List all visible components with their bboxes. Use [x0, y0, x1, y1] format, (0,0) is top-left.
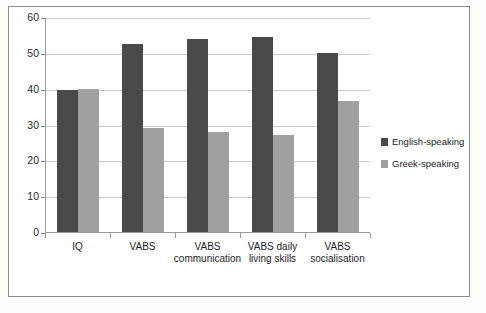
- bar-chart-figure: 0102030405060 IQVABSVABS communicationVA…: [0, 0, 486, 313]
- bar-greek-speaking: [208, 132, 229, 232]
- bar-english-speaking: [57, 90, 78, 232]
- bar-group: [241, 17, 306, 232]
- legend-swatch-greek-speaking: [381, 160, 388, 168]
- plot-area: [45, 18, 370, 233]
- bar-greek-speaking: [273, 135, 294, 232]
- x-axis-tick-mark: [240, 233, 241, 238]
- bar-group: [111, 17, 176, 232]
- bar-english-speaking: [187, 39, 208, 233]
- x-axis-tick-mark: [305, 233, 306, 238]
- bar-group: [176, 17, 241, 232]
- bar-greek-speaking: [78, 89, 99, 232]
- x-axis-tick-mark: [110, 233, 111, 238]
- bar-greek-speaking: [338, 101, 359, 232]
- legend-label-english-speaking: English-speaking: [392, 136, 464, 147]
- y-axis-tick-label: 0: [13, 226, 39, 238]
- bar-greek-speaking: [143, 128, 164, 232]
- bar-group: [306, 17, 371, 232]
- legend-item: English-speaking: [381, 136, 467, 147]
- x-axis-tick-mark: [45, 233, 46, 238]
- x-axis-category-label: VABS daily living skills: [236, 241, 310, 265]
- x-axis-tick-mark: [175, 233, 176, 238]
- bar-english-speaking: [252, 37, 273, 232]
- y-axis-tick-label: 20: [13, 154, 39, 166]
- x-axis-tick-mark: [370, 233, 371, 238]
- x-axis-category-label: VABS communication: [171, 241, 245, 265]
- bar-group: [46, 17, 111, 232]
- legend-item: Greek-speaking: [381, 158, 467, 169]
- legend-swatch-english-speaking: [381, 138, 388, 146]
- bar-english-speaking: [317, 53, 338, 232]
- bar-english-speaking: [122, 44, 143, 232]
- y-axis-tick-label: 60: [13, 11, 39, 23]
- y-axis-tick-label: 30: [13, 119, 39, 131]
- y-axis-tick-label: 50: [13, 47, 39, 59]
- x-axis-category-label: VABS socialisation: [301, 241, 375, 265]
- x-axis-category-label: VABS: [106, 241, 180, 253]
- chart-legend: English-speaking Greek-speaking: [381, 136, 467, 180]
- y-axis-tick-label: 40: [13, 83, 39, 95]
- x-axis-category-label: IQ: [41, 241, 115, 253]
- legend-label-greek-speaking: Greek-speaking: [392, 158, 459, 169]
- y-axis-tick-label: 10: [13, 190, 39, 202]
